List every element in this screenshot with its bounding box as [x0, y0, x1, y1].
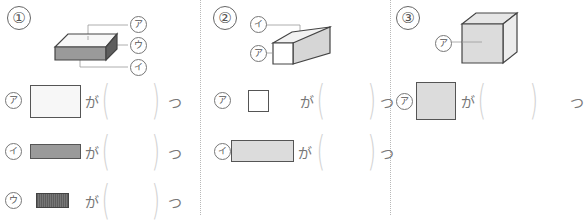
figure-label: ア — [435, 35, 452, 52]
face-swatch-small-square — [248, 90, 269, 112]
row-label: ア — [396, 93, 413, 110]
answer-blank[interactable] — [112, 136, 146, 166]
square-prism-figure — [200, 0, 390, 80]
face-swatch-large-light — [30, 85, 81, 118]
problem-2: ② イ ア ア が ( ) つ イ が ( ) つ — [200, 0, 390, 215]
close-paren: ) — [152, 180, 161, 220]
close-paren: ) — [152, 80, 161, 120]
row-label: ウ — [5, 192, 22, 209]
problem-1: ① ア ウ イ ア が ( ) つ イ が ( ) つ ウ が — [0, 0, 200, 215]
cuboid-figure — [0, 0, 200, 80]
open-paren: ( — [317, 131, 326, 171]
ga-particle: が — [461, 91, 475, 111]
ga-particle: が — [85, 91, 99, 111]
figure-label: イ — [130, 59, 147, 76]
figure-label: ウ — [130, 37, 147, 54]
open-paren: ( — [102, 80, 111, 120]
unit-tsu: つ — [570, 92, 584, 112]
row-label: イ — [214, 143, 231, 160]
unit-tsu: つ — [168, 92, 182, 112]
figure-label: ア — [250, 45, 267, 62]
open-paren: ( — [478, 80, 487, 120]
cube-figure — [390, 0, 578, 80]
open-paren: ( — [317, 80, 326, 120]
unit-tsu: つ — [168, 143, 182, 163]
ga-particle: が — [85, 142, 99, 162]
row-label: イ — [5, 143, 22, 160]
row-label: ア — [5, 92, 22, 109]
figure-label: ア — [130, 16, 147, 33]
unit-tsu: つ — [168, 192, 182, 212]
ga-particle: が — [85, 191, 99, 211]
row-label: ア — [214, 92, 231, 109]
figure-label: イ — [250, 16, 267, 33]
answer-blank[interactable] — [112, 85, 146, 115]
face-swatch-square-light-gray — [416, 82, 456, 120]
open-paren: ( — [102, 131, 111, 171]
close-paren: ) — [368, 131, 377, 171]
face-swatch-long-light-gray — [231, 140, 294, 162]
answer-blank[interactable] — [327, 136, 361, 166]
open-paren: ( — [102, 180, 111, 220]
face-swatch-long-gray — [30, 144, 81, 159]
answer-blank[interactable] — [112, 185, 146, 215]
problem-3: ③ ア ア が ( ) つ — [390, 0, 578, 215]
ga-particle: が — [300, 91, 314, 111]
answer-blank[interactable] — [327, 85, 361, 115]
face-swatch-small-dark — [36, 193, 69, 208]
answer-blank[interactable] — [488, 85, 522, 115]
close-paren: ) — [368, 80, 377, 120]
close-paren: ) — [530, 80, 539, 120]
ga-particle: が — [298, 142, 312, 162]
close-paren: ) — [152, 131, 161, 171]
